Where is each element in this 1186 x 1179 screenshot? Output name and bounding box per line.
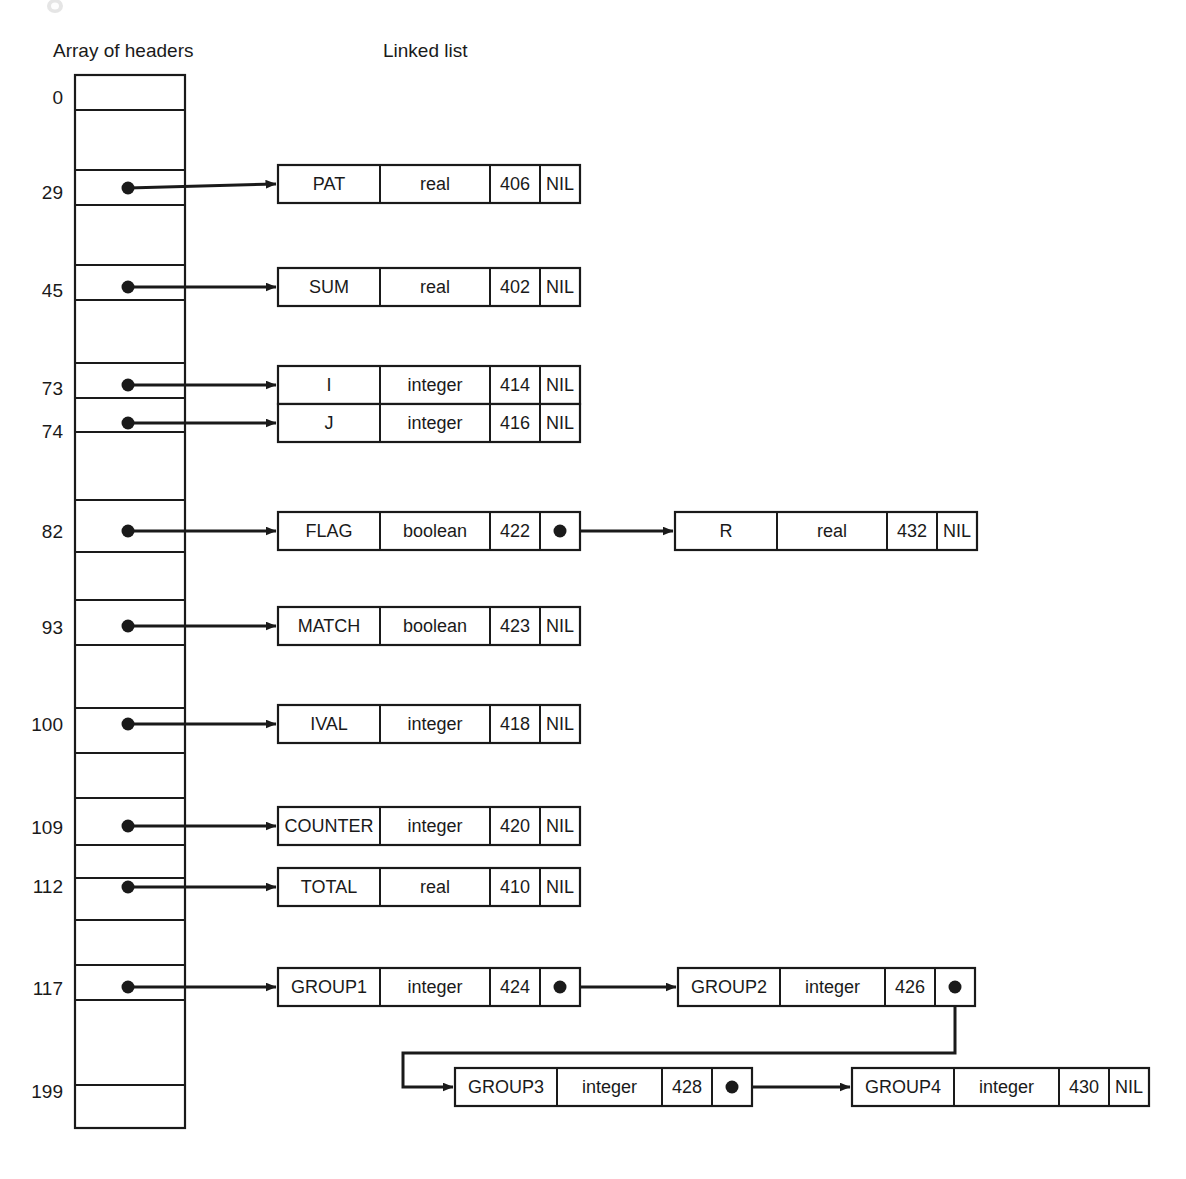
node-next-nil-cell: NIL: [546, 174, 574, 194]
node-next-nil-cell: NIL: [1115, 1077, 1143, 1097]
linked-list-node: FLAGboolean422: [278, 512, 580, 550]
node-address-cell: 414: [500, 375, 530, 395]
array-index-label: 199: [31, 1081, 63, 1102]
node-address-cell: 428: [672, 1077, 702, 1097]
node-next-pointer-dot: [949, 981, 962, 994]
node-address-cell: 424: [500, 977, 530, 997]
linked-list-node: GROUP4integer430NIL: [852, 1068, 1149, 1106]
linked-list-node: TOTALreal410NIL: [278, 868, 580, 906]
linked-list-node: Rreal432NIL: [675, 512, 977, 550]
node-name-cell: FLAG: [305, 521, 352, 541]
node-type-cell: integer: [805, 977, 860, 997]
node-type-cell: real: [817, 521, 847, 541]
node-next-nil-cell: NIL: [546, 616, 574, 636]
linked-list-node: PATreal406NIL: [278, 165, 580, 203]
node-name-cell: GROUP3: [468, 1077, 544, 1097]
header-pointer-dot: [122, 881, 135, 894]
array-index-label: 112: [33, 876, 63, 897]
node-name-cell: PAT: [313, 174, 345, 194]
linked-list-hash-diagram: Array of headers Linked list 02945737482…: [0, 0, 1186, 1179]
node-type-cell: integer: [582, 1077, 637, 1097]
node-next-nil-cell: NIL: [546, 277, 574, 297]
header-pointer-dot: [122, 820, 135, 833]
node-address-cell: 422: [500, 521, 530, 541]
scan-artifact-top: [47, 0, 63, 13]
node-type-cell: integer: [979, 1077, 1034, 1097]
linked-list-node: GROUP1integer424: [278, 968, 580, 1006]
linked-list-node: Iinteger414NIL: [278, 366, 580, 404]
node-name-cell: R: [720, 521, 733, 541]
node-name-cell: SUM: [309, 277, 349, 297]
linked-list-node: GROUP3integer428: [455, 1068, 752, 1106]
array-of-headers-column: [75, 75, 185, 1128]
node-type-cell: real: [420, 174, 450, 194]
array-index-label-group: 0294573748293100109112117199: [31, 87, 63, 1102]
header-pointer-dot: [122, 981, 135, 994]
header-pointer-dot: [122, 620, 135, 633]
array-index-label: 74: [42, 421, 64, 442]
array-index-label: 29: [42, 182, 63, 203]
array-outer-border: [75, 75, 185, 1128]
node-next-nil-cell: NIL: [546, 714, 574, 734]
linked-list-node: IVALinteger418NIL: [278, 705, 580, 743]
header-pointer-dot: [122, 379, 135, 392]
node-name-cell: J: [325, 413, 334, 433]
array-index-label: 117: [33, 978, 63, 999]
node-address-cell: 432: [897, 521, 927, 541]
node-type-cell: real: [420, 877, 450, 897]
node-type-cell: integer: [407, 375, 462, 395]
node-type-cell: integer: [407, 977, 462, 997]
node-type-cell: real: [420, 277, 450, 297]
array-index-label: 109: [31, 817, 63, 838]
node-name-cell: MATCH: [298, 616, 361, 636]
linked-list-node: MATCHboolean423NIL: [278, 607, 580, 645]
figure-container: Array of headers Linked list 02945737482…: [0, 0, 1186, 1179]
array-index-label: 45: [42, 280, 63, 301]
node-name-cell: TOTAL: [301, 877, 357, 897]
node-next-nil-cell: NIL: [546, 375, 574, 395]
node-address-cell: 430: [1069, 1077, 1099, 1097]
node-address-cell: 420: [500, 816, 530, 836]
node-name-cell: COUNTER: [285, 816, 374, 836]
node-next-pointer-dot: [554, 525, 567, 538]
linked-list-node: COUNTERinteger420NIL: [278, 807, 580, 845]
header-pointer-dot: [122, 182, 135, 195]
node-next-nil-cell: NIL: [943, 521, 971, 541]
node-address-cell: 410: [500, 877, 530, 897]
node-type-cell: integer: [407, 714, 462, 734]
array-index-label: 82: [42, 521, 63, 542]
linked-list-node: Jinteger416NIL: [278, 404, 580, 442]
node-address-cell: 426: [895, 977, 925, 997]
linked-list-title: Linked list: [383, 40, 468, 61]
array-index-label: 100: [31, 714, 63, 735]
array-index-label: 73: [42, 378, 63, 399]
node-next-pointer-dot: [554, 981, 567, 994]
header-pointer-dot: [122, 525, 135, 538]
node-type-cell: boolean: [403, 521, 467, 541]
node-type-cell: integer: [407, 413, 462, 433]
node-next-nil-cell: NIL: [546, 816, 574, 836]
node-address-cell: 416: [500, 413, 530, 433]
header-pointer-dot: [122, 281, 135, 294]
node-name-cell: I: [326, 375, 331, 395]
node-next-nil-cell: NIL: [546, 413, 574, 433]
node-name-cell: GROUP4: [865, 1077, 941, 1097]
linked-list-node: GROUP2integer426: [678, 968, 975, 1006]
node-address-cell: 402: [500, 277, 530, 297]
node-address-cell: 418: [500, 714, 530, 734]
linked-list-node: SUMreal402NIL: [278, 268, 580, 306]
node-next-nil-cell: NIL: [546, 877, 574, 897]
node-type-cell: boolean: [403, 616, 467, 636]
node-next-pointer-dot: [726, 1081, 739, 1094]
node-name-cell: GROUP1: [291, 977, 367, 997]
node-address-cell: 406: [500, 174, 530, 194]
node-address-cell: 423: [500, 616, 530, 636]
node-name-cell: IVAL: [310, 714, 348, 734]
array-of-headers-title: Array of headers: [53, 40, 193, 61]
array-index-label: 93: [42, 617, 63, 638]
node-type-cell: integer: [407, 816, 462, 836]
header-pointer-dot: [122, 417, 135, 430]
array-index-label: 0: [52, 87, 63, 108]
header-pointer-dot: [122, 718, 135, 731]
node-name-cell: GROUP2: [691, 977, 767, 997]
